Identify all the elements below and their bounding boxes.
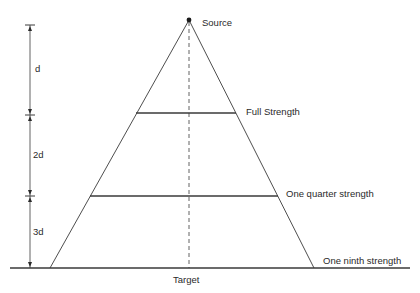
inverse-square-diagram: d 2d 3d Source Full Strength One quarter…: [0, 0, 420, 293]
arrowhead-icon: [28, 197, 32, 202]
ninth-strength-label: One ninth strength: [323, 255, 401, 266]
quarter-strength-label: One quarter strength: [286, 188, 374, 199]
arrowhead-icon: [28, 262, 32, 267]
target-label: Target: [173, 274, 200, 285]
dimension-label-d: d: [35, 63, 40, 74]
dimension-label-2d: 2d: [33, 149, 44, 160]
arrowhead-icon: [28, 190, 32, 195]
triangle-left-side: [50, 20, 189, 268]
triangle-right-side: [189, 20, 314, 268]
arrowhead-icon: [28, 116, 32, 121]
source-point: [187, 18, 192, 23]
dimension-label-3d: 3d: [33, 226, 44, 237]
full-strength-label: Full Strength: [246, 106, 300, 117]
source-label: Source: [202, 17, 232, 28]
arrowhead-icon: [28, 109, 32, 114]
arrowhead-icon: [28, 26, 32, 31]
